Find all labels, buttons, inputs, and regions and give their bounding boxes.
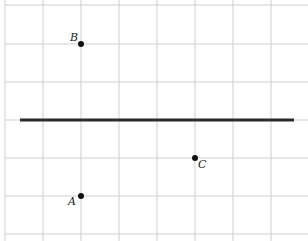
point-label-b: B bbox=[69, 31, 78, 44]
diagram-canvas: B A C bbox=[0, 0, 308, 241]
point-label-c: C bbox=[198, 158, 207, 171]
point-a bbox=[78, 193, 84, 199]
point-b bbox=[78, 41, 84, 47]
point-label-a: A bbox=[67, 195, 76, 208]
